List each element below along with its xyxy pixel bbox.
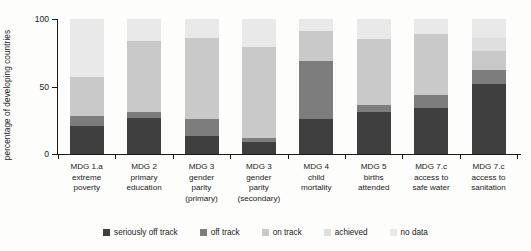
stacked-bar-chart: percentage of developing countries 05010… [0, 0, 531, 251]
x-axis-category-label: MDG 1.aextremepoverty [55, 162, 119, 194]
legend-label: no data [401, 228, 428, 237]
x-tick-mark [230, 155, 231, 159]
y-tick-label-text: 50 [39, 82, 49, 92]
bar-segment[interactable] [414, 34, 448, 95]
x-axis-category-label: MDG 5birthsattended [342, 162, 406, 194]
x-axis-category-label-line: parity [227, 183, 291, 194]
x-axis-category-label-line: MDG 7.c [399, 162, 463, 173]
x-axis-category-label-line: safe water [399, 183, 463, 194]
x-tick-mark [345, 155, 346, 159]
bar-segment[interactable] [242, 19, 276, 47]
bar-segment[interactable] [299, 31, 333, 61]
x-axis-category-label-line: MDG 1.a [55, 162, 119, 173]
legend-label: seriously off track [114, 228, 178, 237]
x-tick-mark [517, 155, 518, 159]
bar-group[interactable] [127, 19, 161, 154]
x-axis-category-label-line: MDG 3 [170, 162, 234, 173]
legend-swatch-icon [200, 229, 207, 236]
x-axis-category-label-line: MDG 7.c [457, 162, 521, 173]
y-axis-title: percentage of developing countries [3, 25, 17, 165]
bar-segment[interactable] [70, 19, 104, 77]
x-tick-mark [402, 155, 403, 159]
x-axis-category-label-line: MDG 4 [284, 162, 348, 173]
x-axis-category-label: MDG 2primaryeducation [112, 162, 176, 194]
bar-segment[interactable] [357, 105, 391, 112]
x-tick-mark [460, 155, 461, 159]
x-tick-mark [288, 155, 289, 159]
bar-segment[interactable] [472, 19, 506, 38]
x-axis-category-label-line: (secondary) [227, 194, 291, 205]
bar-segment[interactable] [70, 116, 104, 125]
bar-segment[interactable] [242, 142, 276, 154]
x-tick-mark [173, 155, 174, 159]
chart-legend: seriously off trackoff trackon trackachi… [0, 225, 531, 239]
bar-segment[interactable] [414, 95, 448, 109]
x-axis-category-label-line: mortality [284, 183, 348, 194]
bar-segment[interactable] [357, 112, 391, 154]
bar-segment[interactable] [185, 19, 219, 38]
x-axis-category-label-line: attended [342, 183, 406, 194]
legend-item[interactable]: no data [390, 228, 428, 237]
legend-label: on track [273, 228, 302, 237]
bar-segment[interactable] [299, 61, 333, 119]
x-axis-category-label-line: MDG 5 [342, 162, 406, 173]
bar-group[interactable] [185, 19, 219, 154]
bar-group[interactable] [472, 19, 506, 154]
x-axis-category-label-line: births [342, 173, 406, 184]
x-axis-category-label-line: gender [170, 173, 234, 184]
x-axis-line [57, 154, 521, 155]
bar-group[interactable] [357, 19, 391, 154]
legend-item[interactable]: on track [262, 228, 302, 237]
legend-item[interactable]: off track [200, 228, 240, 237]
x-axis-category-label-line: MDG 2 [112, 162, 176, 173]
x-axis-category-label-line: MDG 3 [227, 162, 291, 173]
bar-segment[interactable] [357, 39, 391, 105]
bar-segment[interactable] [70, 126, 104, 154]
bar-segment[interactable] [414, 19, 448, 34]
x-axis-category-label-line: education [112, 183, 176, 194]
legend-label: achieved [335, 228, 368, 237]
bar-segment[interactable] [472, 84, 506, 154]
x-axis-category-label: MDG 7.caccess tosanitation [457, 162, 521, 194]
bar-group[interactable] [414, 19, 448, 154]
bar-segment[interactable] [472, 51, 506, 70]
y-tick-label-text: 0 [44, 149, 49, 159]
bar-segment[interactable] [185, 38, 219, 119]
x-axis-category-label-line: primary [112, 173, 176, 184]
bar-segment[interactable] [185, 119, 219, 137]
x-axis-category-label: MDG 3genderparity(secondary) [227, 162, 291, 204]
x-axis-category-label-line: child [284, 173, 348, 184]
bar-segment[interactable] [127, 118, 161, 154]
y-tick-label-text: 100 [35, 14, 49, 24]
x-axis-category-label: MDG 7.caccess tosafe water [399, 162, 463, 194]
bar-segment[interactable] [242, 47, 276, 137]
y-tick-mark [52, 19, 58, 20]
legend-item[interactable]: seriously off track [103, 228, 178, 237]
bar-segment[interactable] [299, 119, 333, 154]
x-tick-mark [58, 155, 59, 159]
bar-group[interactable] [70, 19, 104, 154]
bar-segment[interactable] [185, 136, 219, 154]
x-axis-category-label-line: parity [170, 183, 234, 194]
legend-swatch-icon [262, 229, 269, 236]
x-axis-category-label: MDG 4childmortality [284, 162, 348, 194]
y-tick-mark [52, 87, 58, 88]
x-axis-category-label-line: access to [457, 173, 521, 184]
bar-segment[interactable] [299, 19, 333, 31]
x-axis-category-label: MDG 3genderparity(primary) [170, 162, 234, 204]
x-axis-category-label-line: extreme [55, 173, 119, 184]
bar-group[interactable] [242, 19, 276, 154]
x-axis-category-label-line: poverty [55, 183, 119, 194]
bar-segment[interactable] [127, 41, 161, 113]
bar-segment[interactable] [70, 77, 104, 116]
bar-group[interactable] [299, 19, 333, 154]
bar-segment[interactable] [472, 38, 506, 52]
bar-segment[interactable] [414, 108, 448, 154]
x-tick-mark [115, 155, 116, 159]
legend-swatch-icon [103, 229, 110, 236]
legend-item[interactable]: achieved [324, 228, 368, 237]
x-axis-category-label-line: sanitation [457, 183, 521, 194]
bar-segment[interactable] [472, 70, 506, 84]
bar-segment[interactable] [127, 19, 161, 41]
bar-segment[interactable] [357, 19, 391, 39]
